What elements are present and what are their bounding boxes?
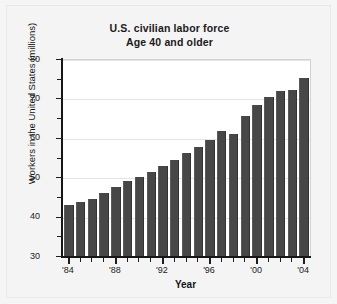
bar [64, 205, 73, 257]
bar [147, 172, 156, 257]
x-tick-1992 [162, 258, 164, 264]
x-tick-1996 [209, 258, 211, 264]
page-title: U.S. civilian labor force [7, 22, 332, 36]
plot-area [62, 59, 311, 257]
bar [205, 140, 214, 257]
y-tick-minor-55 [57, 158, 62, 159]
y-tick-minor-35 [57, 236, 62, 237]
x-tick-1986 [91, 258, 92, 262]
bar [299, 78, 308, 257]
x-tick-1995 [197, 258, 198, 262]
bar [111, 187, 120, 257]
x-tick-2000 [256, 258, 258, 264]
bar [194, 147, 203, 257]
y-axis-label: Workers in the United States (millions) [26, 19, 37, 189]
y-tick-minor-45 [57, 197, 62, 198]
x-tick-label: '04 [286, 265, 320, 275]
y-tick-80 [56, 59, 62, 60]
chart-canvas: U.S. civilian labor force Age 40 and old… [6, 5, 331, 298]
x-axis-label: Year [62, 279, 309, 290]
x-tick-1994 [186, 258, 187, 262]
y-tick-label: 40 [0, 212, 40, 221]
y-tick-label: 30 [0, 252, 40, 261]
x-tick-1999 [244, 258, 245, 262]
y-tick-minor-75 [57, 79, 62, 80]
x-tick-label: '96 [192, 265, 226, 275]
chart-title-block: U.S. civilian labor force Age 40 and old… [7, 22, 332, 49]
y-tick-70 [56, 98, 62, 99]
chart-figure: U.S. civilian labor force Age 40 and old… [0, 0, 337, 304]
x-tick-2004 [303, 258, 305, 264]
bar [99, 193, 108, 257]
bar [182, 153, 191, 257]
bar [252, 105, 261, 257]
bar [170, 160, 179, 257]
x-tick-label: '88 [98, 265, 132, 275]
bar [123, 181, 132, 257]
x-tick-2002 [280, 258, 281, 262]
x-tick-1993 [174, 258, 175, 262]
x-tick-1990 [138, 258, 139, 262]
bar [158, 166, 167, 257]
chart-subtitle: Age 40 and older [7, 36, 332, 50]
x-tick-1989 [127, 258, 128, 262]
x-tick-1984 [68, 258, 70, 264]
x-tick-1991 [150, 258, 151, 262]
x-tick-2003 [291, 258, 292, 262]
x-tick-1988 [115, 258, 117, 264]
bar [229, 134, 238, 257]
x-tick-1997 [221, 258, 222, 262]
bar [264, 97, 273, 257]
x-tick-1998 [233, 258, 234, 262]
bar [288, 90, 297, 257]
x-tick-2001 [268, 258, 269, 262]
y-tick-minor-65 [57, 118, 62, 119]
bar [135, 177, 144, 257]
y-tick-40 [56, 217, 62, 218]
bar [88, 199, 97, 257]
bar-series [63, 60, 310, 257]
x-tick-label: '92 [145, 265, 179, 275]
x-tick-label: '84 [51, 265, 85, 275]
bar [217, 131, 226, 257]
y-tick-30 [56, 256, 62, 257]
y-tick-60 [56, 138, 62, 139]
x-tick-1985 [80, 258, 81, 262]
bar [276, 91, 285, 257]
y-tick-50 [56, 177, 62, 178]
x-tick-1987 [103, 258, 104, 262]
bar [241, 116, 250, 257]
x-tick-label: '00 [239, 265, 273, 275]
bar [76, 202, 85, 257]
